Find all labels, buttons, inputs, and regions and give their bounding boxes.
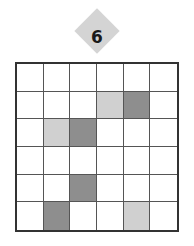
grid-cell-empty [17, 64, 44, 92]
grid-cell-empty [70, 92, 97, 120]
grid-cell-empty [97, 64, 124, 92]
grid-cell-empty [150, 202, 177, 230]
grid-cell-empty [97, 119, 124, 147]
grid-cell-dark [70, 119, 97, 147]
puzzle-number: 6 [77, 19, 117, 55]
grid-cell-empty [44, 64, 71, 92]
grid-cell-empty [70, 64, 97, 92]
grid-cell-light [97, 92, 124, 120]
grid-cell-dark [70, 175, 97, 203]
grid-cell-empty [150, 119, 177, 147]
grid-cell-empty [44, 92, 71, 120]
grid-cell-empty [17, 119, 44, 147]
grid-cell-empty [150, 92, 177, 120]
grid-cell-empty [124, 119, 151, 147]
grid-cell-empty [150, 175, 177, 203]
grid-cell-empty [17, 147, 44, 175]
grid-cell-empty [150, 147, 177, 175]
grid-cell-empty [97, 175, 124, 203]
grid-cell-empty [70, 147, 97, 175]
grid-cell-empty [97, 202, 124, 230]
grid-cell-empty [17, 175, 44, 203]
grid-cell-light [44, 119, 71, 147]
grid-cell-light [124, 202, 151, 230]
grid-cell-empty [150, 64, 177, 92]
grid-cell-empty [124, 147, 151, 175]
grid-cell-empty [17, 92, 44, 120]
grid-cell-empty [44, 147, 71, 175]
grid-cell-empty [70, 202, 97, 230]
grid-cell-empty [44, 175, 71, 203]
grid-cell-empty [17, 202, 44, 230]
puzzle-grid [15, 62, 179, 232]
grid-cell-empty [97, 147, 124, 175]
grid-cell-empty [124, 64, 151, 92]
grid-cell-empty [124, 175, 151, 203]
grid-cell-dark [44, 202, 71, 230]
grid-cell-dark [124, 92, 151, 120]
